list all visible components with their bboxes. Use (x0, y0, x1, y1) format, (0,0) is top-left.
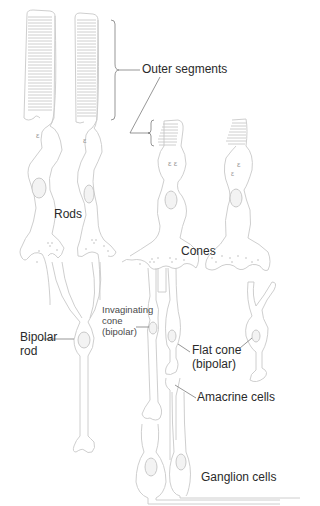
label-cones: Cones (181, 245, 216, 259)
bipolar-rod-cell (52, 262, 101, 453)
rod-cell-1: ε (20, 10, 64, 305)
flat-cone-bipolar-cell-central (166, 268, 181, 375)
label-invaginating-line3: (bipolar) (102, 327, 153, 338)
label-invaginating-cone: Invaginating cone (bipolar) (102, 305, 153, 338)
label-flat-cone: Flat cone (bipolar) (192, 344, 241, 372)
label-bipolar-rod-line2: rod (20, 345, 57, 359)
svg-text:ε: ε (36, 131, 40, 140)
svg-text:ε: ε (237, 160, 241, 169)
svg-text:ε: ε (231, 170, 234, 177)
svg-text:ε ε: ε ε (168, 159, 178, 168)
label-rods: Rods (54, 208, 82, 222)
label-flat-cone-line2: (bipolar) (192, 358, 241, 372)
rod-cell-2: ε (75, 13, 116, 300)
cone-disk-stack-1 (158, 124, 178, 145)
rod-disk-stack-2 (77, 20, 96, 116)
label-bipolar-rod: Bipolar rod (20, 331, 57, 359)
label-flat-cone-line1: Flat cone (192, 344, 241, 358)
invaginating-cone-bipolar-cell (142, 268, 166, 420)
label-ganglion-cells: Ganglion cells (201, 471, 276, 485)
label-bipolar-rod-line1: Bipolar (20, 331, 57, 345)
rod-disk-stack-1 (28, 17, 52, 110)
svg-text:ε: ε (83, 136, 87, 145)
ganglion-cells (136, 392, 300, 504)
label-amacrine-cells: Amacrine cells (197, 391, 275, 405)
cone-disk-stack-2 (226, 123, 246, 144)
label-outer-segments: Outer segments (142, 63, 227, 77)
flat-cone-bipolar-cell-right (246, 282, 276, 382)
